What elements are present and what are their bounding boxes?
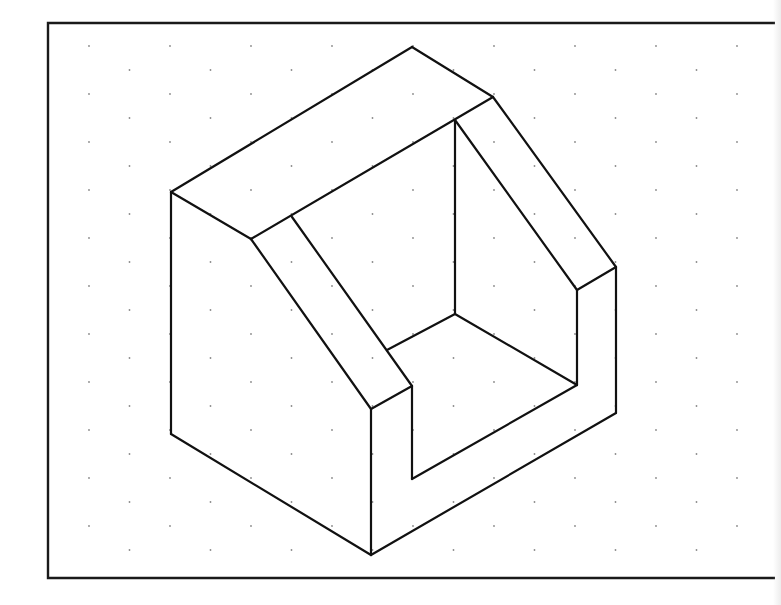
grid-dot <box>372 309 374 311</box>
grid-dot <box>372 357 374 359</box>
grid-dot <box>736 189 738 191</box>
grid-dot <box>412 333 414 335</box>
edge-notch-floor-back <box>455 314 577 385</box>
grid-dot <box>736 525 738 527</box>
grid-dot <box>493 45 495 47</box>
grid-dot <box>412 237 414 239</box>
grid-dot <box>534 69 536 71</box>
grid-dot <box>615 69 617 71</box>
grid-dot <box>250 477 252 479</box>
grid-dot <box>331 333 333 335</box>
grid-dot <box>655 381 657 383</box>
grid-dot <box>88 381 90 383</box>
grid-dot <box>88 477 90 479</box>
grid-dot <box>129 261 131 263</box>
grid-dot <box>696 117 698 119</box>
grid-dot <box>250 45 252 47</box>
grid-dot <box>655 285 657 287</box>
grid-dot <box>453 501 455 503</box>
grid-dot <box>736 477 738 479</box>
grid-dot <box>696 69 698 71</box>
grid-dot <box>534 405 536 407</box>
grid-dot <box>291 261 293 263</box>
grid-dot <box>696 309 698 311</box>
grid-dot <box>331 525 333 527</box>
grid-dot <box>534 309 536 311</box>
grid-dot <box>331 237 333 239</box>
grid-dot <box>291 357 293 359</box>
grid-dot <box>129 165 131 167</box>
grid-dot <box>574 93 576 95</box>
grid-dot <box>88 237 90 239</box>
grid-dot <box>534 549 536 551</box>
grid-dot <box>210 69 212 71</box>
grid-dot <box>493 333 495 335</box>
grid-dot <box>574 141 576 143</box>
grid-dot <box>655 333 657 335</box>
grid-dot <box>655 429 657 431</box>
grid-dot <box>372 213 374 215</box>
grid-dot <box>493 381 495 383</box>
grid-dot <box>615 213 617 215</box>
grid-dot <box>574 237 576 239</box>
grid-dot <box>169 477 171 479</box>
grid-dot <box>291 309 293 311</box>
grid-dot <box>250 285 252 287</box>
grid-dot <box>129 69 131 71</box>
grid-dot <box>169 525 171 527</box>
grid-dot <box>655 525 657 527</box>
grid-dot <box>736 333 738 335</box>
edge-left-step-top <box>371 386 412 409</box>
edge-right-slope-inner <box>455 120 577 290</box>
grid-dot <box>129 213 131 215</box>
grid-dot <box>331 285 333 287</box>
grid-dot <box>88 45 90 47</box>
isometric-object <box>171 47 616 555</box>
grid-dot <box>88 141 90 143</box>
grid-dot <box>210 501 212 503</box>
grid-dot <box>615 165 617 167</box>
grid-dot <box>250 93 252 95</box>
grid-dot <box>250 333 252 335</box>
grid-dot <box>331 429 333 431</box>
grid-dot <box>88 93 90 95</box>
grid-dot <box>696 165 698 167</box>
grid-dot <box>453 549 455 551</box>
edge-left-slope-inner <box>292 217 412 386</box>
grid-dot <box>129 501 131 503</box>
edge-notch-floor-left <box>387 314 455 350</box>
grid-dot <box>615 117 617 119</box>
edge-bottom-right <box>371 413 616 555</box>
grid-dot <box>655 93 657 95</box>
grid-dot <box>574 429 576 431</box>
grid-dot <box>493 429 495 431</box>
grid-dot <box>169 141 171 143</box>
grid-dot <box>453 69 455 71</box>
grid-dot <box>250 429 252 431</box>
grid-dot <box>291 165 293 167</box>
grid-dot <box>574 477 576 479</box>
grid-dot <box>615 501 617 503</box>
grid-dot <box>129 405 131 407</box>
grid-dot <box>534 261 536 263</box>
grid-dot <box>169 45 171 47</box>
grid-dot <box>736 45 738 47</box>
edge-right-slope-outer <box>493 97 616 267</box>
grid-dot <box>129 357 131 359</box>
grid-dot <box>291 501 293 503</box>
grid-dot <box>493 237 495 239</box>
edge-bottom-left <box>171 434 371 555</box>
grid-dot <box>129 453 131 455</box>
grid-dot <box>534 501 536 503</box>
grid-dot <box>88 429 90 431</box>
grid-dot <box>88 285 90 287</box>
grid-dot <box>574 333 576 335</box>
grid-dot <box>534 213 536 215</box>
grid-dot <box>412 189 414 191</box>
edge-top-front-edge <box>171 192 251 239</box>
grid-dot <box>696 357 698 359</box>
grid-dot <box>129 117 131 119</box>
grid-dot <box>291 405 293 407</box>
grid-dot <box>655 45 657 47</box>
grid-dot <box>291 549 293 551</box>
